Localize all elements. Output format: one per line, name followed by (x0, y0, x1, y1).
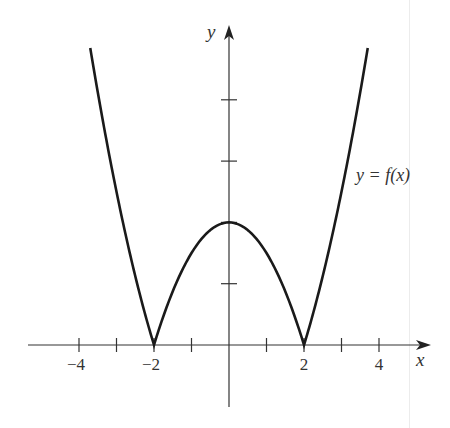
x-tick-label: −2 (142, 355, 160, 374)
x-tick-label: −4 (67, 355, 86, 374)
x-tick-labels: −4−224 (67, 355, 384, 374)
x-tick-label: 2 (300, 355, 309, 374)
curve-label: y = f(x) (354, 165, 410, 186)
x-axis-label: x (415, 349, 425, 370)
axes (28, 25, 431, 407)
function-graph: −4−224 x y y = f(x) (0, 0, 450, 428)
y-axis-label: y (205, 21, 216, 42)
x-tick-label: 4 (375, 355, 384, 374)
